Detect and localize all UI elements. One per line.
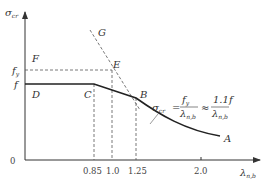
point-label-g: G <box>98 27 106 38</box>
svg-text:≈: ≈ <box>201 102 209 113</box>
point-label-d: D <box>31 89 40 100</box>
x-tick-1.0: 1.0 <box>106 166 120 176</box>
y-axis-label: σcr <box>5 7 19 19</box>
origin-label: 0 <box>10 156 15 166</box>
x-axis-label: λn,b <box>239 167 256 179</box>
y-tick-fy: fy <box>11 65 20 78</box>
svg-text:λn,b: λn,b <box>179 108 196 120</box>
x-tick-2.0: 2.0 <box>194 166 208 176</box>
design-curve <box>25 84 220 136</box>
x-tick-0.85: 0.85 <box>83 166 102 176</box>
point-label-a: A <box>223 133 231 144</box>
x-tick-1.25: 1.25 <box>128 166 147 176</box>
point-label-b: B <box>139 89 147 100</box>
point-label-c: C <box>84 89 92 100</box>
y-tick-f: f <box>13 79 20 90</box>
svg-text:σcr: σcr <box>152 102 166 114</box>
point-label-f: F <box>31 53 40 64</box>
buckling-stress-diagram: σcr λn,b 0 fy f 0.85 1.0 1.25 2.0 F G E … <box>0 0 267 183</box>
svg-text:fy: fy <box>181 94 190 107</box>
svg-text:λn,b: λn,b <box>211 108 228 120</box>
formula-leader-line <box>150 114 158 124</box>
point-label-e: E <box>112 59 121 70</box>
svg-text:1.1f: 1.1f <box>213 94 235 105</box>
